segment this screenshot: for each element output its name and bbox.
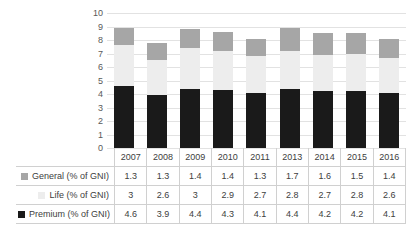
bar-slot-2015 bbox=[340, 13, 373, 148]
bar-segment-general-2015[interactable] bbox=[346, 33, 366, 53]
y-axis-tick-10: 10 bbox=[93, 9, 103, 18]
bar-segment-premium-2014[interactable] bbox=[313, 91, 333, 148]
bar-slot-2016 bbox=[373, 13, 406, 148]
table-header-2010: 2010 bbox=[211, 148, 243, 167]
bar-segment-premium-2008[interactable] bbox=[147, 95, 167, 148]
bar-segment-premium-2010[interactable] bbox=[213, 90, 233, 148]
table-cell: 1.3 bbox=[244, 167, 276, 186]
bar-segment-premium-2015[interactable] bbox=[346, 91, 366, 148]
table-header-2013: 2013 bbox=[276, 148, 308, 167]
y-axis-tick-5: 5 bbox=[98, 76, 103, 85]
bar-stack-2016[interactable] bbox=[379, 39, 399, 148]
bar-stack-2011[interactable] bbox=[246, 39, 266, 148]
bar-segment-general-2007[interactable] bbox=[114, 28, 134, 46]
bar-segment-general-2010[interactable] bbox=[213, 32, 233, 51]
table-body: General (% of GNI)1.31.31.41.41.31.71.61… bbox=[16, 167, 406, 224]
table-cell: 4.6 bbox=[115, 205, 147, 224]
table-header-2015: 2015 bbox=[341, 148, 373, 167]
bar-segment-life-2009[interactable] bbox=[180, 48, 200, 89]
bar-series-group bbox=[107, 13, 406, 148]
bar-segment-general-2014[interactable] bbox=[313, 33, 333, 55]
table-header-2016: 2016 bbox=[373, 148, 405, 167]
y-axis-tick-6: 6 bbox=[98, 63, 103, 72]
table-cell: 1.6 bbox=[308, 167, 340, 186]
bar-segment-premium-2013[interactable] bbox=[280, 89, 300, 148]
table-cell: 4.2 bbox=[341, 205, 373, 224]
y-axis-tick-9: 9 bbox=[98, 22, 103, 31]
bar-segment-general-2009[interactable] bbox=[180, 29, 200, 48]
table-header-2008: 2008 bbox=[147, 148, 179, 167]
table-header-2009: 2009 bbox=[179, 148, 211, 167]
table-row: Premium (% of GNI)4.63.94.44.34.14.44.24… bbox=[16, 205, 406, 224]
table-cell: 4.1 bbox=[244, 205, 276, 224]
bar-slot-2009 bbox=[173, 13, 206, 148]
legend-item-general[interactable]: General (% of GNI) bbox=[16, 167, 115, 186]
table-header-row: 200720082009201020112013201420152016 bbox=[16, 148, 406, 167]
bar-segment-general-2008[interactable] bbox=[147, 43, 167, 61]
table-row: General (% of GNI)1.31.31.41.41.31.71.61… bbox=[16, 167, 406, 186]
bar-segment-general-2016[interactable] bbox=[379, 39, 399, 58]
legend-item-life[interactable]: Life (% of GNI) bbox=[16, 186, 115, 205]
table-cell: 1.5 bbox=[341, 167, 373, 186]
bar-slot-2013 bbox=[273, 13, 306, 148]
table-cell: 4.4 bbox=[179, 205, 211, 224]
table-cell: 2.6 bbox=[373, 186, 405, 205]
bar-slot-2014 bbox=[306, 13, 339, 148]
y-axis-tick-8: 8 bbox=[98, 36, 103, 45]
bar-stack-2009[interactable] bbox=[180, 29, 200, 148]
plot-area bbox=[107, 13, 406, 148]
table-header-2007: 2007 bbox=[115, 148, 147, 167]
table-cell: 2.7 bbox=[244, 186, 276, 205]
bar-segment-life-2015[interactable] bbox=[346, 54, 366, 92]
bar-slot-2010 bbox=[207, 13, 240, 148]
table-cell: 2.9 bbox=[211, 186, 243, 205]
table-cell: 4.3 bbox=[211, 205, 243, 224]
table-cell: 2.8 bbox=[341, 186, 373, 205]
table-cell: 1.4 bbox=[373, 167, 405, 186]
bar-slot-2008 bbox=[140, 13, 173, 148]
table-cell: 1.3 bbox=[115, 167, 147, 186]
table-cell: 4.4 bbox=[276, 205, 308, 224]
table-header-2014: 2014 bbox=[308, 148, 340, 167]
bar-segment-life-2008[interactable] bbox=[147, 60, 167, 95]
table-cell: 2.6 bbox=[147, 186, 179, 205]
table-cell: 1.3 bbox=[147, 167, 179, 186]
bar-segment-life-2014[interactable] bbox=[313, 55, 333, 91]
legend-label: Life (% of GNI) bbox=[49, 190, 109, 200]
table-header-2011: 2011 bbox=[244, 148, 276, 167]
bar-segment-life-2013[interactable] bbox=[280, 51, 300, 89]
bar-segment-life-2007[interactable] bbox=[114, 45, 134, 86]
table-cell: 3 bbox=[115, 186, 147, 205]
bar-stack-2015[interactable] bbox=[346, 33, 366, 148]
bar-stack-2010[interactable] bbox=[213, 32, 233, 148]
bar-segment-premium-2016[interactable] bbox=[379, 93, 399, 148]
table-cell: 1.4 bbox=[179, 167, 211, 186]
table-cell: 3.9 bbox=[147, 205, 179, 224]
bar-segment-premium-2009[interactable] bbox=[180, 89, 200, 148]
legend-item-premium[interactable]: Premium (% of GNI) bbox=[16, 205, 115, 224]
bar-segment-premium-2011[interactable] bbox=[246, 93, 266, 148]
bar-slot-2007 bbox=[107, 13, 140, 148]
bar-stack-2008[interactable] bbox=[147, 43, 167, 148]
y-axis-tick-4: 4 bbox=[98, 90, 103, 99]
bar-segment-life-2010[interactable] bbox=[213, 51, 233, 90]
table-cell: 2.7 bbox=[308, 186, 340, 205]
y-axis-tick-labels: 109876543210 bbox=[84, 13, 103, 148]
table-cell: 4.1 bbox=[373, 205, 405, 224]
table-cell: 1.7 bbox=[276, 167, 308, 186]
table-cell: 2.8 bbox=[276, 186, 308, 205]
bar-segment-premium-2007[interactable] bbox=[114, 86, 134, 148]
bar-segment-life-2016[interactable] bbox=[379, 58, 399, 93]
y-axis-tick-7: 7 bbox=[98, 49, 103, 58]
legend-swatch-icon bbox=[18, 211, 25, 218]
bar-stack-2007[interactable] bbox=[114, 28, 134, 148]
bar-stack-2013[interactable] bbox=[280, 28, 300, 148]
bar-slot-2011 bbox=[240, 13, 273, 148]
bar-stack-2014[interactable] bbox=[313, 33, 333, 148]
table-cell: 1.4 bbox=[211, 167, 243, 186]
bar-segment-general-2011[interactable] bbox=[246, 39, 266, 57]
bar-segment-life-2011[interactable] bbox=[246, 56, 266, 92]
data-table: 200720082009201020112013201420152016 Gen… bbox=[16, 148, 406, 224]
table-corner-cell bbox=[16, 148, 115, 167]
bar-segment-general-2013[interactable] bbox=[280, 28, 300, 51]
